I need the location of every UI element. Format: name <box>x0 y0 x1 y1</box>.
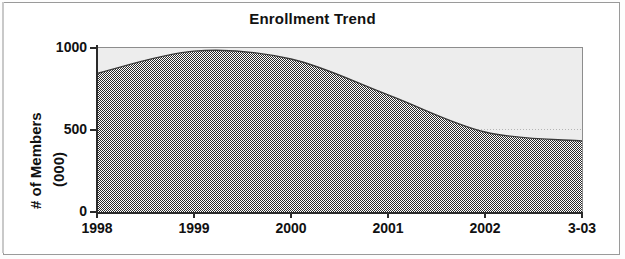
x-tick-label-1998: 1998 <box>62 221 132 235</box>
chart-title: Enrollment Trend <box>0 10 625 27</box>
x-tick-1999 <box>193 212 195 218</box>
x-axis-line <box>96 212 583 214</box>
x-tick-2001 <box>387 212 389 218</box>
chart-figure: Enrollment Trend 1000 500 0 <box>0 0 625 259</box>
x-tick-label-2001: 2001 <box>353 221 423 235</box>
y-axis-title-line2: (000) <box>50 152 67 187</box>
x-tick-2002 <box>484 212 486 218</box>
y-axis-title: # of Members (000) <box>10 47 56 212</box>
y-axis-title-line1: # of Members <box>27 112 44 209</box>
y-tick-1000 <box>90 47 97 49</box>
y-tick-500 <box>90 129 97 131</box>
x-tick-1998 <box>96 212 98 218</box>
area-series <box>97 47 582 212</box>
x-tick-label-2002: 2002 <box>450 221 520 235</box>
x-tick-2000 <box>290 212 292 218</box>
x-tick-label-1999: 1999 <box>159 221 229 235</box>
x-tick-label-3-03: 3-03 <box>547 221 617 235</box>
x-tick-3-03 <box>581 212 583 218</box>
x-tick-label-2000: 2000 <box>256 221 326 235</box>
